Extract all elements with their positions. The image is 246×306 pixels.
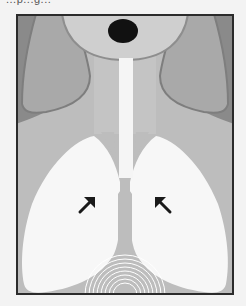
- page: ...p...g...: [0, 0, 246, 306]
- cropped-heading-text: ...p...g...: [6, 0, 51, 5]
- trachea: [119, 58, 133, 178]
- chest-illustration-svg: [16, 14, 234, 295]
- chest-illustration: [16, 14, 234, 295]
- mouth: [108, 19, 138, 43]
